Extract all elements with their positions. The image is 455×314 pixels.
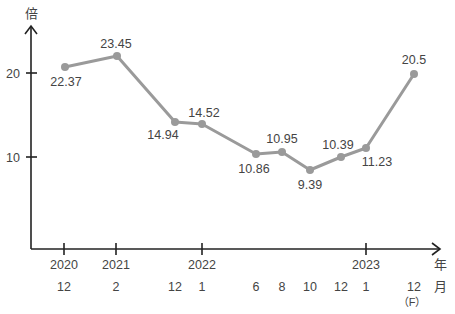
x-month-label: 12 (407, 280, 421, 294)
value-label: 22.37 (50, 75, 81, 89)
x-month-label: 8 (279, 280, 286, 294)
value-label: 10.95 (266, 132, 297, 146)
data-point (113, 52, 121, 60)
value-labels: 22.37 23.45 14.94 14.52 10.86 10.95 9.39… (50, 37, 426, 192)
value-label: 23.45 (100, 37, 131, 51)
x-month-label: 1 (199, 280, 206, 294)
value-label: 10.39 (322, 138, 353, 152)
x-month-label: 12 (168, 280, 182, 294)
data-point (171, 118, 179, 126)
x-year-label: 2022 (188, 258, 216, 272)
data-point (252, 150, 260, 158)
x-month-label: 12 (334, 280, 348, 294)
data-point (337, 153, 345, 161)
x-month-label: 6 (253, 280, 260, 294)
value-label: 20.5 (402, 53, 426, 67)
value-label: 9.39 (298, 178, 322, 192)
x-year-label: 2021 (102, 258, 130, 272)
x-axis: 2020 2021 2022 2023 年 12 2 12 1 6 8 10 1… (31, 243, 447, 308)
value-label: 14.94 (147, 128, 178, 142)
line-chart: 倍 20 10 2020 2021 2022 2023 年 12 2 12 1 … (0, 0, 455, 314)
data-point (306, 166, 314, 174)
y-tick-label: 20 (6, 67, 20, 81)
y-axis-unit: 倍 (25, 6, 38, 21)
x-month-label: 1 (363, 280, 370, 294)
data-point (362, 144, 370, 152)
x-month-label: 10 (303, 280, 317, 294)
x-month-label: 12 (57, 280, 71, 294)
x-axis-year-unit: 年 (434, 257, 447, 272)
x-axis-month-unit: 月 (434, 279, 447, 294)
x-year-label: 2023 (352, 258, 380, 272)
data-point (198, 120, 206, 128)
y-tick-label: 10 (6, 151, 20, 165)
forecast-note: （F） (398, 296, 427, 308)
value-label: 14.52 (188, 106, 219, 120)
y-axis: 倍 20 10 (6, 6, 37, 249)
data-point (410, 70, 418, 78)
x-month-label: 2 (113, 280, 120, 294)
x-year-label: 2020 (50, 258, 78, 272)
data-point (278, 148, 286, 156)
data-point (61, 63, 69, 71)
value-label: 10.86 (238, 162, 269, 176)
value-label: 11.23 (362, 155, 392, 169)
